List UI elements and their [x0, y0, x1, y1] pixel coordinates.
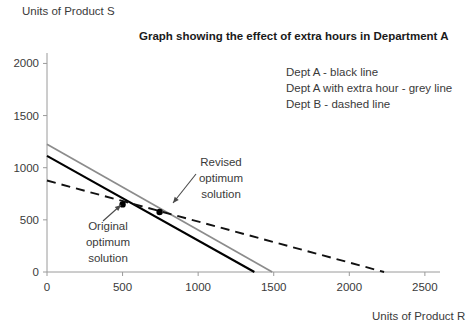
- y-axis-ticks: [43, 63, 47, 272]
- y-axis-tick-labels: 0500100015002000: [13, 57, 39, 278]
- y-tick-label: 500: [20, 214, 39, 226]
- y-axis-title: Units of Product S: [22, 5, 115, 17]
- x-tick-label: 2000: [337, 281, 363, 293]
- x-tick-label: 1000: [185, 281, 211, 293]
- annotation-line: solution: [201, 188, 241, 200]
- annotation-line: optimum: [199, 172, 243, 184]
- x-axis-tick-labels: 05001000150020002500: [44, 281, 438, 293]
- x-tick-label: 1500: [261, 281, 287, 293]
- y-tick-label: 1500: [13, 110, 39, 122]
- chart-title: Graph showing the effect of extra hours …: [139, 30, 448, 42]
- legend-item-dept-a-extra: Dept A with extra hour - grey line: [286, 82, 452, 94]
- chart-canvas: Units of Product S Graph showing the eff…: [0, 0, 476, 328]
- x-tick-label: 500: [113, 281, 132, 293]
- annotation-line: solution: [88, 252, 128, 264]
- chart-page: Units of Product S Graph showing the eff…: [0, 0, 476, 328]
- annotation-original-optimum: Originaloptimumsolution: [86, 205, 130, 264]
- data-point-original-optimum: [119, 201, 125, 207]
- y-tick-label: 0: [33, 266, 39, 278]
- y-tick-label: 1000: [13, 162, 39, 174]
- annotation-line: Original: [88, 220, 128, 232]
- x-tick-label: 0: [44, 281, 50, 293]
- legend-item-dept-a: Dept A - black line: [286, 66, 378, 78]
- annotation-line: optimum: [86, 236, 130, 248]
- legend-item-dept-b: Dept B - dashed line: [286, 98, 390, 110]
- annotation-line: Revised: [200, 156, 242, 168]
- y-tick-label: 2000: [13, 57, 39, 69]
- x-axis-ticks: [47, 272, 425, 276]
- legend: Dept A - black line Dept A with extra ho…: [286, 66, 452, 110]
- annotation-revised-optimum: Revisedoptimumsolution: [173, 156, 243, 203]
- x-tick-label: 2500: [412, 281, 438, 293]
- x-axis-title: Units of Product R: [372, 310, 465, 322]
- data-point-revised-optimum: [156, 209, 162, 215]
